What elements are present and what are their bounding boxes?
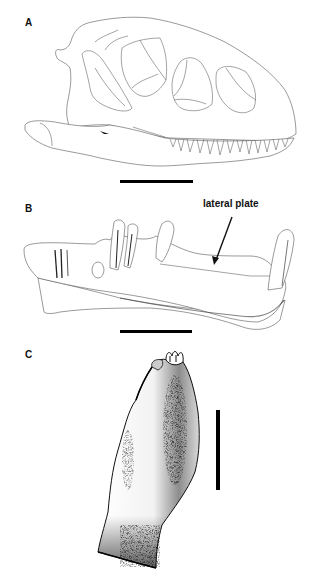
figure-canvas: [0, 0, 309, 579]
skull-drawing: [25, 17, 296, 166]
tooth-stipple-left: [122, 430, 134, 490]
tooth-stipple-right: [163, 375, 187, 485]
scale-bar-a: [120, 180, 193, 183]
scale-bar-c: [216, 410, 220, 490]
skull-outline: [56, 17, 296, 141]
jaw-fragment-drawing: [24, 217, 294, 330]
jaw-tooth-4: [268, 230, 294, 290]
tooth-stipple-base: [120, 525, 160, 567]
lateral-plate-arrow-line: [216, 217, 232, 260]
isolated-tooth-drawing: [98, 352, 199, 569]
tooth-crown-cusps: [166, 352, 183, 365]
scale-bar-b: [120, 330, 192, 333]
jaw-tooth-socket: [92, 262, 104, 278]
